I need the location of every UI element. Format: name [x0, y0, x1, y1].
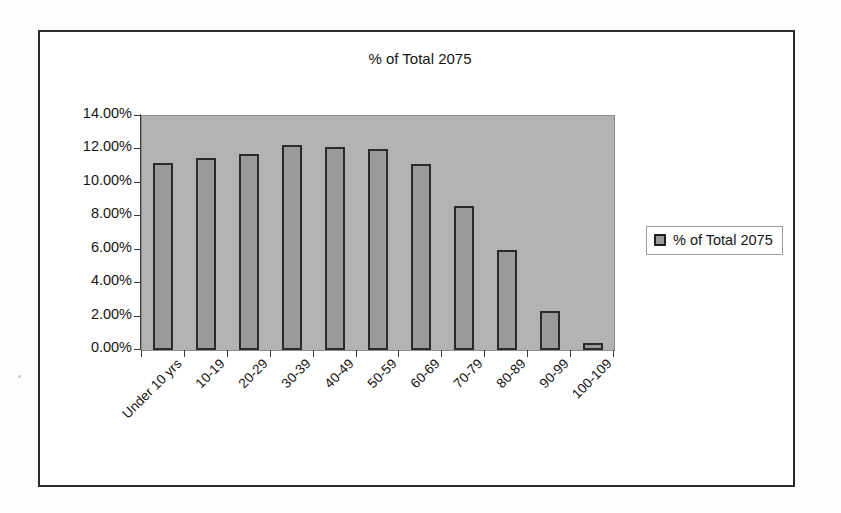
- y-axis-tick-label: 4.00%: [52, 272, 132, 288]
- bar: [497, 250, 517, 350]
- bar: [583, 343, 603, 350]
- x-axis-tick-label: 100-109: [568, 356, 614, 402]
- x-axis-tick-label: 10-19: [193, 356, 228, 391]
- bar: [411, 164, 431, 350]
- y-axis-tick: [134, 182, 141, 183]
- x-axis-labels: Under 10 yrs10-1920-2930-3940-4950-5960-…: [141, 352, 615, 482]
- chart-page: % of Total 2075 0.00%2.00%4.00%6.00%8.00…: [0, 0, 841, 513]
- y-axis-tick-label: 10.00%: [52, 172, 132, 188]
- x-axis-tick-label: 80-89: [493, 356, 528, 391]
- x-axis-tick-label: 30-39: [279, 356, 314, 391]
- y-axis-tick: [134, 282, 141, 283]
- chart-title: % of Total 2075: [220, 50, 620, 67]
- bar: [196, 158, 216, 350]
- y-axis-tick: [134, 349, 141, 350]
- y-axis-tick: [134, 215, 141, 216]
- x-axis-tick-label: 90-99: [536, 356, 571, 391]
- y-axis-tick-label: 8.00%: [52, 205, 132, 221]
- legend-label: % of Total 2075: [673, 232, 773, 248]
- bars-container: [142, 116, 614, 350]
- y-axis-tick-label: 2.00%: [52, 306, 132, 322]
- bar: [239, 154, 259, 350]
- bar: [325, 147, 345, 350]
- x-axis-tick-label: Under 10 yrs: [120, 356, 185, 421]
- plot-area: [141, 115, 615, 351]
- bar: [282, 145, 302, 350]
- chart-frame: % of Total 2075 0.00%2.00%4.00%6.00%8.00…: [38, 30, 795, 487]
- y-axis-tick-label: 12.00%: [52, 138, 132, 154]
- y-axis-tick: [134, 148, 141, 149]
- chart-legend[interactable]: % of Total 2075: [646, 226, 783, 255]
- y-axis-labels: 0.00%2.00%4.00%6.00%8.00%10.00%12.00%14.…: [46, 114, 132, 350]
- scan-artifact: [18, 375, 21, 378]
- y-axis-tick: [134, 316, 141, 317]
- y-axis-tick-label: 0.00%: [52, 339, 132, 355]
- bar: [540, 311, 560, 350]
- x-axis-tick-label: 40-49: [322, 356, 357, 391]
- y-axis-tick-label: 6.00%: [52, 239, 132, 255]
- y-axis-tick: [134, 115, 141, 116]
- bar: [454, 206, 474, 350]
- y-axis-tick: [134, 249, 141, 250]
- x-axis-tick-label: 60-69: [407, 356, 442, 391]
- y-axis-tick-label: 14.00%: [52, 105, 132, 121]
- x-axis-tick-label: 20-29: [236, 356, 271, 391]
- x-axis-tick-label: 70-79: [450, 356, 485, 391]
- legend-swatch-icon: [654, 234, 666, 246]
- bar: [368, 149, 388, 350]
- x-axis-tick-label: 50-59: [365, 356, 400, 391]
- bar: [153, 163, 173, 350]
